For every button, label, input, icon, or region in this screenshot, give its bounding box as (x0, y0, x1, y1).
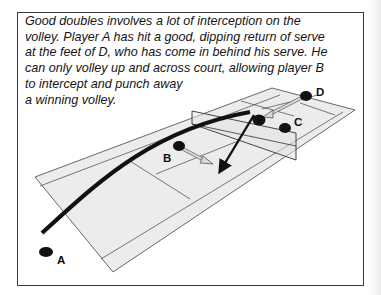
player-d-partner-icon (253, 115, 266, 126)
player-label-b: B (163, 152, 171, 164)
tennis-court-diagram: A B C D (0, 0, 381, 295)
player-label-c: C (294, 116, 302, 128)
player-d-icon (300, 91, 312, 101)
player-label-d: D (316, 86, 324, 98)
player-label-a: A (57, 254, 65, 266)
player-b-icon (173, 141, 185, 151)
player-c-icon (279, 123, 291, 133)
player-a-icon (39, 247, 53, 257)
